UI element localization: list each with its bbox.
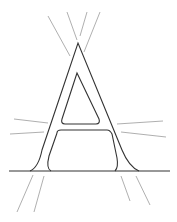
illustration-canvas: A — [0, 0, 177, 222]
top-guide-lines — [48, 12, 100, 56]
letter-a-left-inner-edge — [48, 133, 57, 171]
bottom-guide-lines — [17, 175, 150, 212]
side-guide-lines — [10, 119, 166, 137]
letter-a-drawing — [0, 0, 177, 222]
letter-a-lower-counter — [57, 130, 118, 171]
letter-a-outer-outline — [30, 43, 139, 171]
